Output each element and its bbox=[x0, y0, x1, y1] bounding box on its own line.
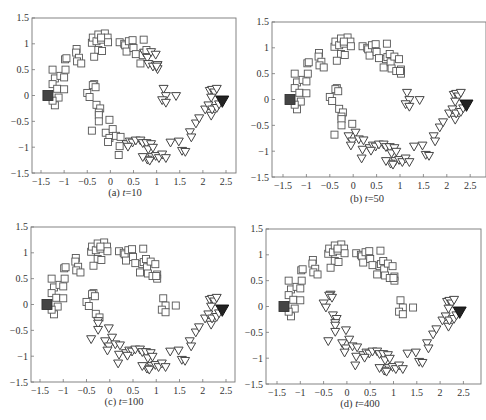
x-tick-label: 2.5 bbox=[220, 176, 233, 187]
y-tick-label: 1 bbox=[23, 247, 28, 258]
square-marker bbox=[303, 90, 310, 97]
square-marker bbox=[54, 85, 61, 92]
x-tick-label: 2.5 bbox=[220, 385, 233, 396]
triangle-marker bbox=[166, 139, 175, 147]
triangle-marker bbox=[159, 85, 168, 93]
y-tick-label: 0.5 bbox=[251, 275, 264, 286]
square-marker bbox=[341, 52, 348, 59]
square-marker bbox=[77, 269, 84, 276]
square-marker bbox=[304, 70, 311, 77]
y-tick-label: 0.5 bbox=[257, 68, 270, 79]
square-marker bbox=[335, 259, 342, 266]
square-marker bbox=[136, 269, 143, 276]
square-marker bbox=[380, 64, 387, 71]
y-tick-label: −1.5 bbox=[245, 379, 263, 390]
triangle-marker bbox=[431, 138, 440, 146]
x-tick-label: 2 bbox=[438, 387, 443, 398]
square-marker bbox=[153, 273, 160, 280]
square-marker bbox=[299, 266, 306, 273]
y-tick-label: 0 bbox=[264, 94, 269, 105]
y-tick-label: 1.5 bbox=[16, 221, 29, 232]
square-marker bbox=[338, 122, 345, 129]
y-tick-label: −0.5 bbox=[11, 116, 29, 127]
triangle-marker bbox=[151, 51, 160, 59]
triangle-marker bbox=[340, 349, 349, 357]
square-marker bbox=[109, 126, 116, 133]
square-marker bbox=[98, 257, 105, 264]
x-tick-label: 0.5 bbox=[364, 387, 377, 398]
y-tick-label: −1 bbox=[258, 146, 269, 157]
square-marker bbox=[97, 243, 104, 250]
x-tick-label: 0 bbox=[107, 385, 112, 396]
x-tick-label: −1 bbox=[295, 387, 306, 398]
x-tick-label: 1 bbox=[154, 176, 159, 187]
y-tick-label: −1 bbox=[17, 351, 28, 362]
square-marker bbox=[162, 309, 169, 316]
square-marker bbox=[320, 64, 327, 71]
square-marker bbox=[349, 120, 356, 127]
triangle-marker bbox=[123, 352, 132, 360]
triangle-marker bbox=[358, 146, 367, 154]
square-marker bbox=[160, 295, 167, 302]
square-marker bbox=[285, 95, 295, 105]
x-tick-label: 0 bbox=[108, 176, 113, 187]
square-marker bbox=[172, 302, 179, 309]
triangle-marker bbox=[351, 362, 360, 370]
triangle-marker bbox=[104, 325, 113, 333]
square-marker bbox=[117, 133, 124, 140]
triangle-marker bbox=[207, 321, 216, 329]
square-marker bbox=[61, 275, 68, 282]
square-marker bbox=[99, 48, 106, 55]
square-marker bbox=[397, 68, 404, 75]
triangle-marker bbox=[207, 112, 216, 120]
square-marker bbox=[374, 271, 381, 278]
square-marker bbox=[397, 297, 404, 304]
x-tick-label: −1.5 bbox=[31, 385, 49, 396]
y-tick-label: −0.5 bbox=[245, 327, 263, 338]
square-marker bbox=[331, 131, 338, 138]
square-marker bbox=[327, 264, 334, 271]
triangle-marker bbox=[418, 142, 427, 150]
x-tick-label: 1.5 bbox=[173, 385, 186, 396]
square-marker bbox=[90, 262, 97, 269]
y-tick-label: −1.5 bbox=[251, 172, 269, 183]
y-tick-label: 1.5 bbox=[251, 223, 264, 234]
panel-a: −1.5−1−0.500.511.522.51.510.50−0.5−1−1.5… bbox=[11, 12, 236, 199]
triangle-marker bbox=[410, 143, 419, 151]
square-marker bbox=[334, 245, 341, 252]
square-marker bbox=[335, 88, 342, 95]
panel-caption: (d) t=400 bbox=[340, 398, 379, 410]
triangle-marker bbox=[187, 134, 196, 142]
square-marker bbox=[399, 311, 406, 318]
square-marker bbox=[140, 245, 147, 252]
square-marker bbox=[375, 55, 382, 62]
square-marker bbox=[377, 247, 384, 254]
triangle-marker bbox=[352, 353, 361, 361]
square-marker bbox=[62, 66, 69, 73]
data-points bbox=[42, 239, 229, 374]
square-marker bbox=[305, 59, 312, 66]
square-marker bbox=[297, 285, 304, 292]
y-tick-label: 1 bbox=[258, 249, 263, 260]
triangle-marker bbox=[424, 345, 433, 353]
y-tick-label: 0.5 bbox=[17, 64, 30, 75]
x-tick-label: −0.5 bbox=[77, 385, 95, 396]
figure: −1.5−1−0.500.511.522.51.510.50−0.5−1−1.5… bbox=[0, 0, 486, 420]
x-tick-label: 0.5 bbox=[127, 176, 140, 187]
y-tick-label: −1 bbox=[18, 142, 29, 153]
x-tick-label: 1 bbox=[154, 385, 159, 396]
square-marker bbox=[347, 43, 354, 50]
square-marker bbox=[279, 302, 289, 312]
square-marker bbox=[61, 74, 68, 81]
x-tick-label: 2 bbox=[200, 385, 205, 396]
square-marker bbox=[49, 66, 56, 73]
square-marker bbox=[390, 275, 397, 282]
square-marker bbox=[88, 127, 95, 134]
square-marker bbox=[296, 89, 303, 96]
y-tick-label: 0 bbox=[23, 299, 28, 310]
x-tick-label: 1 bbox=[398, 180, 403, 191]
square-marker bbox=[60, 283, 67, 290]
triangle-marker bbox=[451, 116, 460, 124]
square-marker bbox=[91, 53, 98, 60]
square-marker bbox=[132, 260, 139, 267]
